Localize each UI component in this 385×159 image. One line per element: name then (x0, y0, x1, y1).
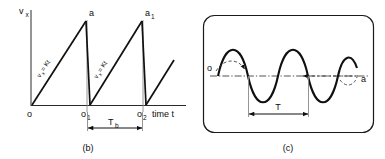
caption-c: (c) (283, 143, 294, 153)
ramp-1-rising (32, 21, 86, 105)
ramp-3-partial (146, 60, 174, 105)
ramp-2-rising (90, 21, 142, 105)
reset-label-o2-sub: 2 (143, 114, 147, 121)
reset-label-o2: o 2 (137, 109, 147, 121)
period-label-t: T (275, 102, 281, 112)
y-axis-label-main: v (19, 6, 24, 16)
period-dimension-tb: T b (88, 112, 143, 131)
panel-c-frame (204, 16, 374, 133)
ramp-equation-1-rest: = Kt (39, 59, 51, 73)
origin-label-o: o (27, 109, 32, 119)
reset-label-o1: o 1 (81, 109, 91, 121)
y-axis-label: v x (19, 6, 30, 18)
peak-label-a: a (89, 8, 94, 18)
panel-b: v x v x = Kt v x = Kt a a (19, 6, 186, 153)
period-label-tb-sub: b (115, 122, 119, 129)
caption-b: (b) (83, 143, 94, 153)
end-label-a: a (361, 74, 366, 84)
return-dashed-curve (340, 77, 357, 85)
panel-c: o a T (c) (204, 16, 374, 154)
peak-label-a-main: a (89, 8, 94, 18)
figure-root: v x v x = Kt v x = Kt a a (0, 0, 385, 159)
reset-label-o1-main: o (81, 109, 86, 119)
y-axis-label-sub: x (26, 11, 30, 18)
peak-label-a1: a 1 (145, 8, 155, 20)
figure-svg: v x v x = Kt v x = Kt a a (0, 0, 385, 159)
period-dimension-t: T (249, 76, 309, 117)
start-label-o: o (207, 63, 212, 73)
reset-label-o2-main: o (137, 109, 142, 119)
peak-label-a1-sub: 1 (151, 13, 155, 20)
period-label-tb-main: T (108, 117, 114, 127)
peak-label-a1-main: a (145, 8, 150, 18)
x-axis-label: time t (152, 109, 175, 119)
ramp-equation-2-rest: = Kt (96, 60, 108, 74)
